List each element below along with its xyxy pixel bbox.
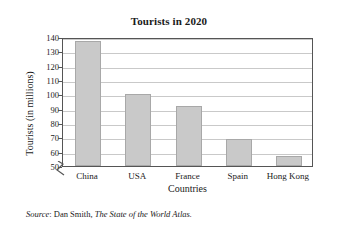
y-tick-mark <box>58 124 62 125</box>
y-tick-label: 110 <box>19 77 59 86</box>
y-tick-label: 90 <box>19 106 59 115</box>
source-note: Source: Dan Smith, The State of the Worl… <box>26 209 192 219</box>
bar <box>176 106 202 166</box>
axis-break-icon <box>56 161 70 177</box>
y-tick-mark <box>58 138 62 139</box>
chart-figure: Tourists in 2020 Tourists (in millions) … <box>0 0 338 237</box>
y-tick-mark <box>58 67 62 68</box>
chart-title: Tourists in 2020 <box>0 15 338 27</box>
source-author: Dan Smith, <box>54 209 95 219</box>
y-tick-mark <box>58 38 62 39</box>
source-book-title: The State of the World Atlas. <box>95 209 192 219</box>
bar <box>276 156 302 166</box>
y-tick-mark <box>58 81 62 82</box>
y-tick-label: 60 <box>19 149 59 158</box>
y-tick-label: 100 <box>19 91 59 100</box>
y-tick-mark <box>58 153 62 154</box>
plot-area <box>62 38 313 167</box>
y-tick-label: 130 <box>19 48 59 57</box>
y-tick-mark <box>58 95 62 96</box>
y-tick-label: 80 <box>19 120 59 129</box>
y-tick-label: 140 <box>19 34 59 43</box>
bar <box>125 94 151 166</box>
y-tick-mark <box>58 52 62 53</box>
y-tick-label: 120 <box>19 63 59 72</box>
y-tick-mark <box>58 110 62 111</box>
bar <box>75 41 101 166</box>
x-axis-title: Countries <box>62 183 313 194</box>
source-label: Source <box>26 209 49 219</box>
gridline <box>63 39 312 40</box>
x-tick-label: Hong Kong <box>248 171 328 182</box>
y-tick-label: 70 <box>19 134 59 143</box>
bar <box>226 139 252 166</box>
